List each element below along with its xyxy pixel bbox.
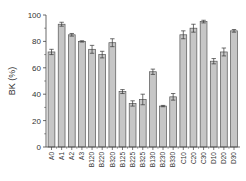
bar-A1 [58,24,65,147]
x-tick-label: B330 [169,152,176,168]
x-tick-label: C10 [180,152,187,164]
y-axis-title: BK (%) [7,67,17,96]
x-tick-label: B230 [159,152,166,168]
x-tick-label: A1 [58,152,65,160]
x-tick-label: B125 [119,152,126,168]
x-tick-label: C20 [190,152,197,164]
x-tick-label: A0 [48,152,55,160]
x-tick-label: A3 [78,152,85,160]
bars [48,20,237,147]
bar-chart: 020406080100 A0A1A2A3B120B220B320B125B22… [0,0,246,181]
bar-D10 [210,61,217,147]
x-tick-label: B120 [88,152,95,168]
bar-B320 [109,43,116,147]
bar-B220 [99,55,106,147]
bar-B130 [149,72,156,147]
bar-D20 [220,52,227,147]
bar-B120 [89,49,96,147]
x-tick-label: B225 [129,152,136,168]
y-tick-label: 60 [32,64,41,73]
bar-B125 [119,92,126,147]
bar-C10 [180,35,187,147]
bar-A2 [68,35,75,147]
x-tick-label: C30 [200,152,207,164]
x-tick-label: B320 [109,152,116,168]
y-tick-label: 20 [32,117,41,126]
y-tick-label: 80 [32,37,41,46]
x-tick-label: D20 [220,152,227,164]
bar-A0 [48,52,55,147]
x-tick-label: A2 [68,152,75,160]
x-tick-label: D10 [210,152,217,164]
y-tick-label: 40 [32,90,41,99]
bar-C30 [200,22,207,147]
x-tick-label: B220 [98,152,105,168]
x-tick-label: D30 [230,152,237,164]
y-tick-label: 100 [28,11,42,20]
x-tick-label: B130 [149,152,156,168]
bar-B230 [160,106,167,147]
bar-A3 [79,41,86,147]
bar-D30 [231,31,238,147]
x-tick-label: B325 [139,152,146,168]
y-axis: 020406080100 [28,11,46,152]
y-tick-label: 0 [37,143,42,152]
bar-B330 [170,97,177,147]
bar-B325 [139,99,146,147]
bar-B225 [129,103,136,147]
bar-C20 [190,28,197,147]
x-axis: A0A1A2A3B120B220B320B125B225B325B130B230… [46,147,240,167]
